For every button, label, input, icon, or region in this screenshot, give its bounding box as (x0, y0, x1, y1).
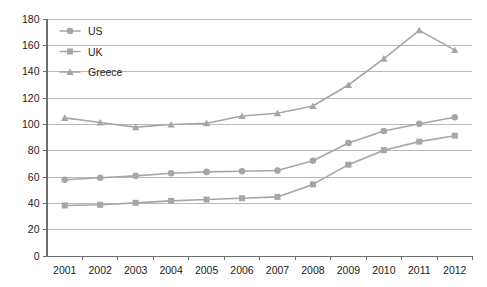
y-tick-label-120: 120 (22, 92, 40, 104)
datapoint-uk-2002 (97, 202, 103, 208)
x-tick-label-2005: 2005 (195, 264, 219, 276)
x-tick-label-2011: 2011 (408, 264, 431, 276)
datapoint-uk-2004 (168, 198, 174, 204)
x-tick-label-2009: 2009 (337, 264, 361, 276)
legend-marker-circle-icon (67, 28, 74, 35)
y-tick-label-180: 180 (22, 13, 40, 25)
series-line-us (65, 117, 455, 180)
datapoint-greece-2008 (309, 102, 316, 109)
datapoint-uk-2012 (452, 133, 458, 139)
y-tick-label-140: 140 (22, 65, 40, 77)
datapoint-us-2003 (132, 173, 139, 180)
datapoint-us-2004 (168, 170, 175, 177)
y-tick-label-80: 80 (28, 144, 40, 156)
y-tick-label-160: 160 (22, 39, 40, 51)
datapoint-uk-2006 (239, 195, 245, 201)
y-tick-label-100: 100 (22, 118, 40, 130)
datapoint-us-2010 (381, 128, 388, 135)
x-tick-label-2004: 2004 (159, 264, 183, 276)
datapoint-us-2008 (310, 157, 317, 164)
datapoint-uk-2011 (416, 139, 422, 145)
legend-marker-square-icon (67, 49, 73, 55)
x-tick-label-2003: 2003 (124, 264, 148, 276)
legend-label-uk: UK (88, 46, 103, 58)
datapoint-uk-2008 (310, 181, 316, 187)
datapoint-uk-2010 (381, 147, 387, 153)
datapoint-us-2006 (239, 168, 246, 175)
y-tick-label-60: 60 (28, 171, 40, 183)
line-chart: 0204060801001201401601802001200220032004… (0, 0, 487, 287)
datapoint-us-2002 (97, 175, 104, 182)
datapoint-uk-2007 (274, 194, 280, 200)
y-tick-label-20: 20 (28, 223, 40, 235)
datapoint-us-2012 (451, 114, 458, 121)
datapoint-us-2007 (274, 167, 281, 174)
datapoint-us-2011 (416, 121, 423, 128)
x-tick-label-2010: 2010 (372, 264, 396, 276)
x-tick-label-2001: 2001 (53, 264, 77, 276)
x-tick-label-2007: 2007 (266, 264, 290, 276)
datapoint-us-2009 (345, 140, 352, 147)
legend-label-us: US (88, 25, 103, 37)
series-line-greece (65, 30, 455, 127)
x-tick-label-2012: 2012 (443, 264, 467, 276)
datapoint-greece-2011 (416, 27, 423, 34)
x-tick-label-2002: 2002 (89, 264, 113, 276)
x-tick-label-2006: 2006 (230, 264, 254, 276)
y-tick-label-0: 0 (34, 250, 40, 262)
y-tick-label-40: 40 (28, 197, 40, 209)
datapoint-us-2005 (203, 169, 210, 176)
datapoint-uk-2005 (204, 197, 210, 203)
chart-canvas: 0204060801001201401601802001200220032004… (0, 0, 487, 287)
datapoint-uk-2003 (133, 200, 139, 206)
datapoint-us-2001 (61, 176, 68, 183)
legend-label-greece: Greece (88, 66, 123, 78)
x-tick-label-2008: 2008 (301, 264, 325, 276)
datapoint-greece-2012 (451, 47, 458, 54)
datapoint-uk-2009 (345, 162, 351, 168)
datapoint-uk-2001 (62, 202, 68, 208)
